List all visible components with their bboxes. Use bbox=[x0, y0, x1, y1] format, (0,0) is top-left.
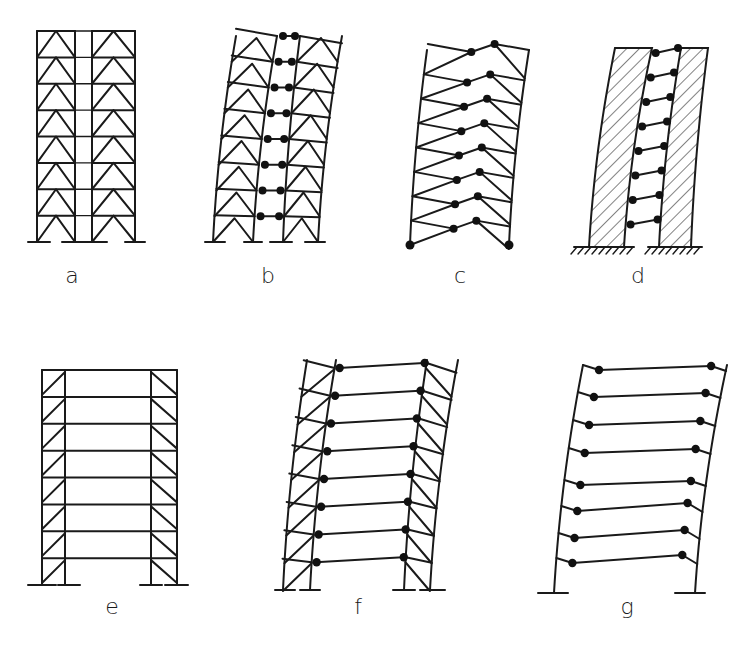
coupling-beam bbox=[633, 195, 660, 200]
plastic-hinge-icon bbox=[670, 69, 678, 77]
panel-e-braced-bays-frame bbox=[28, 370, 188, 585]
plastic-hinge-icon bbox=[275, 58, 283, 66]
diagonal-brace bbox=[151, 399, 177, 422]
plastic-hinge-icon bbox=[320, 475, 328, 483]
chevron-brace bbox=[37, 31, 75, 57]
beam bbox=[421, 99, 464, 107]
diagonal-brace bbox=[151, 506, 177, 529]
plastic-hinge-icon bbox=[267, 109, 275, 117]
panel-label-e: e bbox=[105, 594, 119, 619]
coupling-beam bbox=[631, 220, 658, 225]
plastic-hinge-icon bbox=[457, 127, 465, 135]
right-column bbox=[695, 365, 727, 593]
plastic-hinge-icon bbox=[450, 225, 458, 233]
plastic-hinge-icon bbox=[570, 534, 578, 542]
plastic-hinge-icon bbox=[595, 366, 603, 374]
diagonal-brace bbox=[42, 426, 65, 449]
chevron-brace bbox=[92, 57, 135, 83]
panel-f-deformed-braced-bays-frame bbox=[275, 359, 458, 591]
chevron-brace bbox=[283, 218, 318, 242]
plastic-hinge-icon bbox=[655, 191, 663, 199]
diagonal-brace bbox=[42, 480, 65, 503]
plastic-hinge-icon bbox=[335, 364, 343, 372]
plastic-hinge-icon bbox=[331, 392, 339, 400]
beam bbox=[228, 82, 269, 87]
chevron-brace bbox=[287, 141, 324, 165]
diagonal-brace bbox=[151, 453, 177, 476]
plastic-hinge-icon bbox=[275, 212, 283, 220]
diagonal-brace bbox=[151, 480, 177, 503]
plastic-hinge-icon bbox=[629, 196, 637, 204]
beam bbox=[424, 74, 467, 82]
ground-hatch bbox=[666, 247, 672, 254]
chevron-brace bbox=[214, 193, 254, 217]
ground-hatch bbox=[687, 247, 693, 254]
plastic-hinge-icon bbox=[420, 359, 428, 367]
structural-systems-figure: a b c d e f g bbox=[0, 0, 746, 652]
chevron-brace bbox=[92, 163, 135, 189]
chevron-brace bbox=[219, 141, 259, 165]
k-brace bbox=[412, 180, 456, 196]
plastic-hinge-icon bbox=[259, 187, 267, 195]
plastic-hinge-icon bbox=[483, 95, 491, 103]
chevron-brace bbox=[37, 137, 75, 163]
long-beam bbox=[316, 557, 403, 562]
long-beam bbox=[323, 474, 410, 479]
chevron-brace bbox=[92, 110, 135, 136]
panel-label-c: c bbox=[454, 263, 466, 288]
k-brace bbox=[424, 52, 471, 74]
plastic-hinge-icon bbox=[264, 135, 272, 143]
diagonal-brace bbox=[151, 560, 177, 583]
pinned-base-icon bbox=[505, 241, 514, 250]
long-beam bbox=[339, 363, 424, 368]
beam bbox=[284, 216, 319, 217]
plastic-hinge-icon bbox=[400, 553, 408, 561]
chevron-brace bbox=[289, 115, 327, 139]
plastic-hinge-icon bbox=[654, 216, 662, 224]
plastic-hinge-icon bbox=[327, 419, 335, 427]
beam bbox=[304, 360, 335, 368]
ground-hatch bbox=[599, 247, 605, 254]
beam bbox=[214, 215, 254, 216]
plastic-hinge-icon bbox=[627, 221, 635, 229]
k-brace bbox=[414, 156, 459, 172]
chevron-brace bbox=[37, 216, 75, 242]
chevron-brace bbox=[216, 167, 256, 191]
plastic-hinge-icon bbox=[476, 168, 484, 176]
plastic-hinge-icon bbox=[474, 192, 482, 200]
beam bbox=[411, 221, 454, 229]
plastic-hinge-icon bbox=[660, 142, 668, 150]
long-beam bbox=[318, 530, 405, 535]
plastic-hinge-icon bbox=[652, 49, 660, 57]
chevron-brace bbox=[213, 218, 253, 242]
beam bbox=[428, 44, 472, 52]
plastic-hinge-icon bbox=[451, 200, 459, 208]
plastic-hinge-icon bbox=[323, 447, 331, 455]
ground-hatch bbox=[620, 247, 626, 254]
chevron-brace bbox=[37, 189, 75, 215]
plastic-hinge-icon bbox=[401, 525, 409, 533]
plastic-hinge-icon bbox=[678, 551, 686, 559]
chevron-brace bbox=[92, 189, 135, 215]
plastic-hinge-icon bbox=[680, 526, 688, 534]
panel-d-coupled-shear-walls bbox=[571, 44, 708, 254]
plastic-hinge-icon bbox=[261, 161, 269, 169]
plastic-hinge-icon bbox=[658, 167, 666, 175]
beam bbox=[427, 363, 457, 373]
ground-hatch bbox=[578, 247, 584, 254]
beam bbox=[418, 123, 461, 131]
plastic-hinge-icon bbox=[647, 74, 655, 82]
ground-hatch bbox=[673, 247, 679, 254]
chevron-brace bbox=[37, 57, 75, 83]
plastic-hinge-icon bbox=[317, 503, 325, 511]
diagonal-brace bbox=[151, 426, 177, 449]
plastic-hinge-icon bbox=[404, 498, 412, 506]
plastic-hinge-icon bbox=[472, 217, 480, 225]
long-beam bbox=[326, 446, 412, 451]
plastic-hinge-icon bbox=[282, 109, 290, 117]
diagonal-brace bbox=[151, 533, 177, 556]
k-brace bbox=[421, 82, 467, 98]
plastic-hinge-icon bbox=[491, 40, 499, 48]
diagonal-brace bbox=[42, 533, 65, 556]
diagonal-brace bbox=[151, 372, 177, 395]
